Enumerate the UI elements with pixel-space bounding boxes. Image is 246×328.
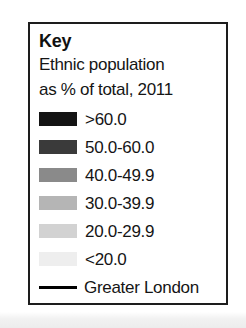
map-legend-box: Key Ethnic population as % of total, 201… — [28, 22, 228, 305]
legend-swatch-icon — [39, 168, 77, 182]
legend-title: Key — [39, 31, 222, 52]
legend-class-list: >60.0 50.0-60.0 40.0-49.9 30.0-39.9 20.0… — [39, 105, 222, 301]
legend-swatch-icon — [39, 196, 77, 210]
legend-swatch-icon — [39, 112, 77, 126]
legend-row: >60.0 — [39, 105, 222, 133]
legend-row-label: 50.0-60.0 — [85, 138, 154, 157]
solid-line-icon — [39, 286, 77, 289]
legend-row: <20.0 — [39, 245, 222, 273]
legend-subtitle-line-1: Ethnic population — [39, 52, 222, 77]
legend-row-label: <20.0 — [85, 250, 127, 269]
page-bottom-band — [0, 312, 246, 328]
legend-row-label: >60.0 — [85, 110, 127, 129]
legend-swatch-icon — [39, 140, 77, 154]
legend-row: 30.0-39.9 — [39, 189, 222, 217]
legend-row: 40.0-49.9 — [39, 161, 222, 189]
legend-boundary-label: Greater London — [84, 278, 199, 297]
legend-swatch-icon — [39, 224, 77, 238]
legend-swatch-icon — [39, 252, 77, 266]
legend-row-label: 20.0-29.9 — [85, 222, 154, 241]
legend-row: 50.0-60.0 — [39, 133, 222, 161]
legend-subtitle-line-2: as % of total, 2011 — [39, 77, 222, 102]
legend-content: Key Ethnic population as % of total, 201… — [39, 31, 222, 301]
legend-row-label: 40.0-49.9 — [85, 166, 154, 185]
legend-row: 20.0-29.9 — [39, 217, 222, 245]
legend-row-label: 30.0-39.9 — [85, 194, 154, 213]
legend-boundary-row: Greater London — [39, 273, 222, 301]
